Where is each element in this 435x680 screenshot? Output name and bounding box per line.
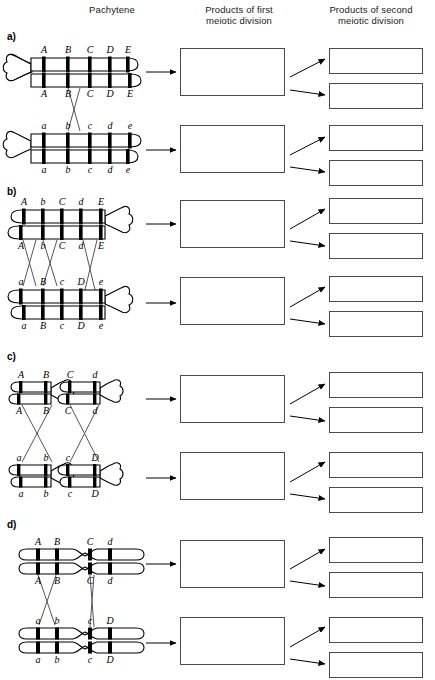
panel-a-allele-A1: A [37,45,51,55]
panel-a-allele-d4: d [103,165,117,175]
panel-b-allele-C1: C [55,197,69,207]
panel-a-allele-b3: b [61,121,75,131]
panel-a-allele-b4: b [61,165,75,175]
panel-a-chromatid-3 [31,134,141,147]
panel-c-allele-a4: a [14,489,28,499]
panel-b-allele-B3: B [36,277,50,287]
panel-a-allele-D1: D [103,45,117,55]
panel-d-allele-D3: D [103,616,117,626]
panel-a-allele-E1: E [121,45,135,55]
panel-b-allele-B4: B [36,321,50,331]
panel-a-allele-e4: e [121,165,135,175]
panel-b-allele-D4: D [74,321,88,331]
panel-a-allele-B2: B [61,89,75,99]
panel-c-allele-b4: b [39,489,53,499]
panel-c-allele-B1: B [39,370,53,380]
panel-a-centromere-lower [3,131,31,157]
panel-b-allele-c4: c [55,321,69,331]
panel-a-allele-B1: B [61,45,75,55]
panel-a-chromatid-1 [31,58,138,71]
panel-a-centromere-upper [3,54,31,80]
panel-b-centromere-upper [105,206,133,232]
panel-a-allele-c4: c [83,165,97,175]
panel-c-allele-B2: B [39,406,53,416]
panel-c-allele-d1: d [88,370,102,380]
panel-b-allele-a3: a [14,277,28,287]
figure-canvas: Pachytene Products of first meiotic divi… [0,0,435,680]
panel-d-allele-B2: B [50,576,64,586]
panel-b-allele-d2: d [74,241,88,251]
panel-b-allele-C2: C [55,241,69,251]
panel-b-allele-c3: c [55,277,69,287]
panel-a-allele-A2: A [37,89,51,99]
panel-d-allele-A1: A [31,537,45,547]
chromosome-layer [0,0,435,680]
panel-c-allele-D3: D [88,453,102,463]
panel-d-allele-C2: C [83,576,97,586]
panel-c-allele-c3: c [61,453,75,463]
panel-d-allele-b3: b [50,616,64,626]
panel-d-allele-B1: B [50,537,64,547]
panel-c-allele-d2: d [88,406,102,416]
panel-a-allele-d3: d [103,121,117,131]
panel-d-allele-c3: c [83,616,97,626]
panel-d-allele-d2: d [103,576,117,586]
panel-a-allele-D2: D [103,89,117,99]
panel-b-allele-E1: E [94,197,108,207]
panel-b-chromosomes [8,206,133,320]
panel-d-allele-d1: d [103,537,117,547]
panel-a-allele-C1: C [83,45,97,55]
panel-c-allele-C2: C [61,406,75,416]
panel-d-allele-b4: b [50,655,64,665]
panel-c-centromere-lower-right [100,463,123,485]
panel-b-allele-e3: e [94,277,108,287]
panel-c-allele-A1: A [14,370,28,380]
panel-a-allele-c3: c [83,121,97,131]
panel-c-allele-c4: c [63,489,77,499]
panel-b-allele-A1: A [17,197,31,207]
panel-b-allele-a4: a [17,321,31,331]
panel-b-allele-E2: E [94,241,108,251]
panel-d-allele-D4: D [103,655,117,665]
panel-d-chromosomes [19,549,144,654]
panel-c-allele-a3: a [12,453,26,463]
panel-d-allele-c4: c [83,655,97,665]
panel-a-chromosomes [3,54,141,164]
panel-c-centromere-upper-right [100,380,123,402]
panel-a-chromatid-2 [31,74,141,87]
panel-c-allele-A2: A [12,406,26,416]
panel-b-allele-A2: A [14,241,28,251]
panel-a-allele-a3: a [37,121,51,131]
panel-d-allele-A2: A [31,576,45,586]
panel-c-allele-b3: b [39,453,53,463]
panel-a-allele-E2: E [123,89,137,99]
panel-d-allele-a4: a [31,655,45,665]
panel-b-allele-D3: D [74,277,88,287]
panel-b-allele-d1: d [74,197,88,207]
panel-b-centromere-lower [105,286,133,312]
panel-d-allele-a3: a [31,616,45,626]
panel-a-chromatid-4 [31,150,138,163]
panel-b-allele-e4: e [94,321,108,331]
panel-c-chromosomes [9,380,123,488]
panel-b-allele-b2: b [36,241,50,251]
panel-d-allele-C1: C [83,537,97,547]
panel-c-allele-C1: C [63,370,77,380]
panel-a-allele-a4: a [37,165,51,175]
panel-c-allele-D4: D [88,489,102,499]
panel-a-allele-e3: e [123,121,137,131]
panel-b-allele-b1: b [36,197,50,207]
panel-a-allele-C2: C [83,89,97,99]
